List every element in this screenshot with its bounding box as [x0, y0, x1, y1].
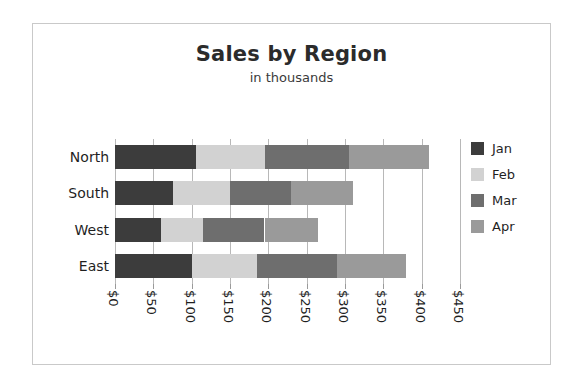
value-tick-label: $300 — [336, 290, 351, 323]
bar-segment[interactable] — [115, 145, 196, 169]
legend-label: Jan — [492, 142, 512, 155]
axis-tick — [345, 284, 346, 289]
legend-item-mar[interactable]: Mar — [471, 189, 517, 211]
chart-canvas: Sales by Region in thousands NorthSouthW… — [0, 0, 570, 387]
legend-swatch-icon — [471, 220, 484, 233]
bar-segment[interactable] — [265, 145, 349, 169]
value-tick-label: $200 — [259, 290, 274, 323]
legend-label: Feb — [492, 168, 515, 181]
bar-segment[interactable] — [203, 218, 264, 242]
category-label-east: East — [79, 254, 109, 278]
bar-segment[interactable] — [115, 181, 173, 205]
plot-area — [115, 139, 460, 284]
legend-item-apr[interactable]: Apr — [471, 215, 517, 237]
value-tick-label: $50 — [144, 290, 159, 315]
bar-segment[interactable] — [291, 181, 352, 205]
legend-label: Apr — [492, 220, 515, 233]
axis-tick — [383, 284, 384, 289]
axis-tick — [460, 284, 461, 289]
axis-tick — [115, 284, 116, 289]
legend-swatch-icon — [471, 142, 484, 155]
bar-segment[interactable] — [230, 181, 291, 205]
title-block: Sales by Region in thousands — [33, 42, 550, 87]
axis-tick — [307, 284, 308, 289]
bar-stack[interactable] — [115, 181, 353, 205]
legend-label: Mar — [492, 194, 517, 207]
bar-stack[interactable] — [115, 145, 429, 169]
bar-stack[interactable] — [115, 254, 406, 278]
value-tick-label: $450 — [451, 290, 466, 323]
value-tick-label: $250 — [298, 290, 313, 323]
legend-swatch-icon — [471, 194, 484, 207]
axis-tick — [153, 284, 154, 289]
value-tick-label: $150 — [221, 290, 236, 323]
bar-segment[interactable] — [115, 254, 192, 278]
bar-segment[interactable] — [257, 254, 338, 278]
chart-frame: Sales by Region in thousands NorthSouthW… — [32, 23, 551, 365]
axis-tick — [192, 284, 193, 289]
legend-item-feb[interactable]: Feb — [471, 163, 517, 185]
axis-tick — [230, 284, 231, 289]
category-label-west: West — [75, 218, 109, 242]
legend: JanFebMarApr — [471, 137, 517, 241]
value-tick-label: $0 — [106, 290, 121, 307]
bar-segment[interactable] — [337, 254, 406, 278]
category-axis-labels: NorthSouthWestEast — [33, 139, 109, 284]
bar-segment[interactable] — [192, 254, 257, 278]
bar-stack[interactable] — [115, 218, 318, 242]
bar-segment[interactable] — [115, 218, 161, 242]
axis-tick — [422, 284, 423, 289]
value-tick-label: $100 — [183, 290, 198, 323]
axis-tick — [268, 284, 269, 289]
gridline — [460, 139, 461, 284]
value-tick-label: $350 — [374, 290, 389, 323]
bar-segment[interactable] — [196, 145, 265, 169]
bar-segment[interactable] — [349, 145, 430, 169]
chart-subtitle: in thousands — [33, 69, 550, 87]
category-label-north: North — [70, 145, 109, 169]
value-tick-label: $400 — [413, 290, 428, 323]
value-axis-labels: $0$50$100$150$200$250$300$350$400$450 — [115, 290, 460, 360]
legend-swatch-icon — [471, 168, 484, 181]
bar-segment[interactable] — [173, 181, 231, 205]
page-title: Sales by Region — [33, 42, 550, 66]
bar-segment[interactable] — [265, 218, 319, 242]
category-label-south: South — [68, 181, 109, 205]
legend-item-jan[interactable]: Jan — [471, 137, 517, 159]
bar-segment[interactable] — [161, 218, 203, 242]
